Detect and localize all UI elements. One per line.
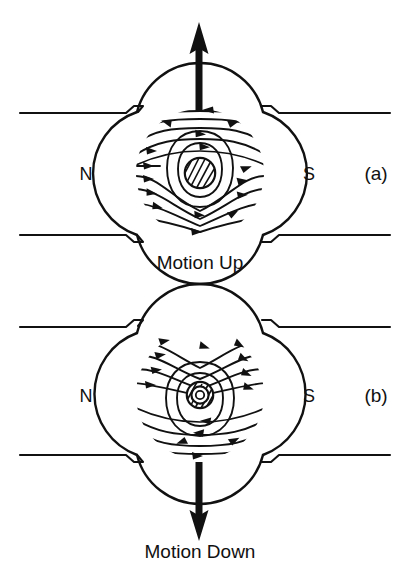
south-pole-label-a: S	[303, 164, 315, 184]
panel-label-b: (b)	[364, 385, 387, 406]
panel-b: N S (b) Motion Down	[20, 284, 390, 562]
figure-root: N S (a) Motion Up	[0, 0, 410, 565]
arrow-down-icon	[190, 462, 209, 541]
panel-a: N S (a) Motion Up	[20, 22, 390, 284]
north-pole-label-a: N	[80, 164, 93, 184]
panel-label-a: (a)	[364, 163, 387, 184]
arrow-up-icon	[190, 22, 209, 111]
caption-motion-down: Motion Down	[145, 541, 256, 562]
physics-diagram-canvas: N S (a) Motion Up	[0, 0, 410, 565]
conductor-b	[186, 382, 214, 408]
south-pole-label-b: S	[303, 386, 315, 406]
caption-motion-up: Motion Up	[157, 252, 244, 273]
north-pole-label-b: N	[80, 386, 93, 406]
conductor-a	[180, 156, 218, 191]
